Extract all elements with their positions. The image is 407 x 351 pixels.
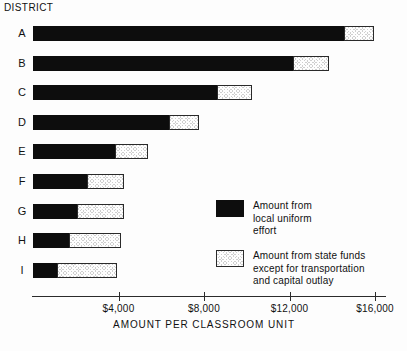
bar-segment-state-funds[interactable] bbox=[69, 233, 121, 248]
row-label-d: D bbox=[14, 114, 30, 130]
stacked-bar-e[interactable] bbox=[33, 144, 148, 159]
bar-segment-local-effort[interactable] bbox=[33, 115, 170, 130]
legend-swatch-local-effort bbox=[216, 200, 244, 217]
row-label-f: F bbox=[14, 173, 30, 189]
row-label-e: E bbox=[14, 143, 30, 159]
bar-segment-state-funds[interactable] bbox=[57, 263, 117, 278]
bar-row: H bbox=[0, 231, 407, 249]
row-label-c: C bbox=[14, 84, 30, 100]
row-label-a: A bbox=[14, 25, 30, 41]
x-axis-tick bbox=[204, 292, 205, 301]
stacked-bar-f[interactable] bbox=[33, 174, 124, 189]
x-axis-tick-label: $16,000 bbox=[356, 303, 394, 314]
stacked-bar-i[interactable] bbox=[33, 263, 117, 278]
bar-segment-local-effort[interactable] bbox=[33, 26, 345, 41]
bar-segment-state-funds[interactable] bbox=[115, 144, 148, 159]
legend-label: Amount from state funds except for trans… bbox=[253, 250, 365, 288]
stacked-bar-c[interactable] bbox=[33, 85, 252, 100]
x-axis-tick bbox=[290, 292, 291, 301]
row-label-i: I bbox=[14, 262, 30, 278]
horizontal-stacked-bar-chart: DISTRICT ABCDEFGHI $4,000$8,000$12,000$1… bbox=[0, 0, 407, 351]
stacked-bar-b[interactable] bbox=[33, 56, 329, 71]
x-axis-title: AMOUNT PER CLASSROOM UNIT bbox=[113, 319, 295, 330]
x-axis-line bbox=[32, 296, 386, 297]
x-axis-tick-label: $12,000 bbox=[271, 303, 309, 314]
bar-segment-local-effort[interactable] bbox=[33, 204, 78, 219]
bar-row: D bbox=[0, 113, 407, 131]
bar-row: C bbox=[0, 83, 407, 101]
bar-segment-state-funds[interactable] bbox=[77, 204, 124, 219]
bar-segment-state-funds[interactable] bbox=[344, 26, 374, 41]
x-axis-tick bbox=[119, 292, 120, 301]
bar-row: G bbox=[0, 202, 407, 220]
bar-segment-state-funds[interactable] bbox=[217, 85, 252, 100]
bar-row: A bbox=[0, 24, 407, 42]
bar-segment-local-effort[interactable] bbox=[33, 144, 116, 159]
row-label-b: B bbox=[14, 55, 30, 71]
bar-row: B bbox=[0, 54, 407, 72]
bar-segment-state-funds[interactable] bbox=[169, 115, 199, 130]
bar-segment-state-funds[interactable] bbox=[293, 56, 329, 71]
bar-segment-local-effort[interactable] bbox=[33, 263, 58, 278]
bar-segment-local-effort[interactable] bbox=[33, 174, 88, 189]
bar-segment-local-effort[interactable] bbox=[33, 56, 294, 71]
x-axis-tick-label: $8,000 bbox=[188, 303, 220, 314]
row-label-h: H bbox=[14, 232, 30, 248]
stacked-bar-g[interactable] bbox=[33, 204, 124, 219]
y-axis-title: DISTRICT bbox=[4, 2, 53, 13]
x-axis-tick-label: $4,000 bbox=[103, 303, 135, 314]
bar-row: E bbox=[0, 142, 407, 160]
bar-row: F bbox=[0, 172, 407, 190]
legend-label: Amount from local uniform effort bbox=[253, 200, 312, 238]
bar-segment-local-effort[interactable] bbox=[33, 85, 218, 100]
legend-item[interactable]: Amount from local uniform effort bbox=[216, 200, 312, 238]
bar-segment-state-funds[interactable] bbox=[87, 174, 124, 189]
legend-item[interactable]: Amount from state funds except for trans… bbox=[216, 250, 365, 288]
x-axis-tick bbox=[375, 292, 376, 301]
stacked-bar-a[interactable] bbox=[33, 26, 374, 41]
bar-segment-local-effort[interactable] bbox=[33, 233, 70, 248]
stacked-bar-h[interactable] bbox=[33, 233, 121, 248]
legend-swatch-state-funds bbox=[216, 250, 244, 267]
stacked-bar-d[interactable] bbox=[33, 115, 199, 130]
row-label-g: G bbox=[14, 203, 30, 219]
